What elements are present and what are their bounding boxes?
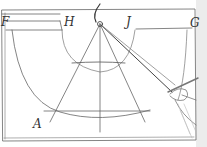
- label-F: F: [0, 15, 10, 29]
- right-converging-line: [100, 24, 145, 122]
- upper-chord: [72, 62, 125, 63]
- construction-drawing: F H J G A: [0, 0, 207, 147]
- compass-arc: [95, 4, 100, 22]
- left-converging-line: [50, 24, 100, 122]
- semicircle-arc: [12, 30, 150, 118]
- G-band: [136, 28, 192, 29]
- ruler-line: [100, 24, 172, 92]
- hand-holding-pen: [168, 78, 198, 138]
- label-H: H: [63, 15, 75, 29]
- label-A: A: [32, 117, 42, 131]
- inner-frame-bottom: [4, 137, 194, 138]
- inner-arc: [62, 30, 135, 72]
- label-J: J: [123, 15, 132, 29]
- hatch-shading: [178, 104, 196, 138]
- H-tick: [60, 21, 62, 30]
- label-G: G: [190, 16, 200, 30]
- thumb: [182, 95, 196, 100]
- ruler-edge: [100, 24, 175, 85]
